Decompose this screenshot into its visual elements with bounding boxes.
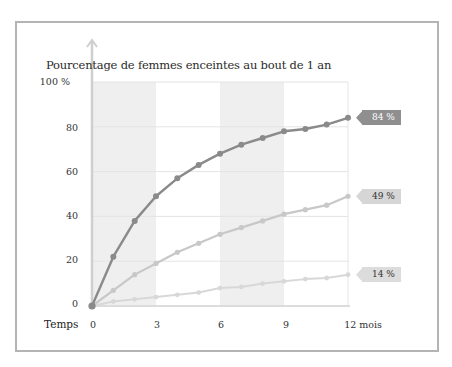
data-point [110,254,116,260]
data-point [218,286,223,291]
chart-plot-area [0,0,452,367]
data-point [175,250,180,255]
data-point [281,212,286,217]
data-point [217,232,222,237]
data-point [282,279,287,284]
data-point [346,272,351,277]
y-tick-60: 60 [38,166,78,177]
data-point [153,261,158,266]
data-point [303,207,308,212]
data-point [345,194,350,199]
y-tick-80: 80 [38,122,78,133]
data-point [154,295,159,300]
data-point [111,299,116,304]
data-point [260,218,265,223]
data-point [217,151,223,157]
data-point [345,115,351,121]
x-tick-9: 9 [266,319,306,330]
data-point [196,290,201,295]
data-point [175,292,180,297]
y-tick-40: 40 [38,210,78,221]
data-point [196,162,202,168]
data-point [281,128,287,134]
data-point [260,281,265,286]
y-tick-0: 0 [38,298,78,309]
data-point [132,297,137,302]
data-point [111,288,116,293]
data-point [239,285,244,290]
end-label-series-2: 49 % [362,189,401,204]
shaded-band [92,82,156,306]
data-point [303,277,308,282]
data-point [153,193,159,199]
x-tick-6: 6 [201,319,241,330]
data-point [324,203,329,208]
y-tick-20: 20 [38,254,78,265]
data-point [132,272,137,277]
data-point [302,126,308,132]
data-point [174,175,180,181]
data-point [132,218,138,224]
chart-title: Pourcentage de femmes enceintes au bout … [46,58,331,72]
x-tick-12: 12 mois [338,319,388,330]
data-point [324,122,330,128]
end-label-series-3: 14 % [362,267,401,282]
data-point [260,135,266,141]
x-tick-0: 0 [73,319,113,330]
end-label-series-1: 84 % [362,110,401,125]
y-tick-100: 100 % [30,76,70,87]
data-point [324,276,329,281]
origin-point [88,302,95,309]
x-tick-3: 3 [137,319,177,330]
data-point [196,241,201,246]
data-point [239,225,244,230]
shaded-band [220,82,284,306]
data-point [238,142,244,148]
